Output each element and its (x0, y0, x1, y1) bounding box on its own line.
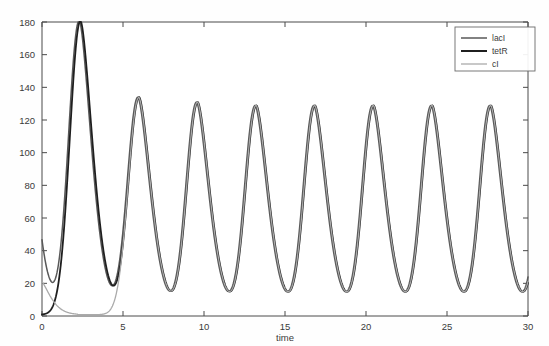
y-tick-label: 40 (24, 245, 35, 256)
y-tick-label: 160 (19, 49, 35, 60)
x-tick-label: 5 (120, 321, 125, 332)
legend-label-laci[interactable]: lacI (492, 33, 505, 43)
y-tick-label: 180 (19, 17, 35, 28)
x-axis-title: time (276, 332, 294, 343)
x-tick-label: 15 (280, 321, 291, 332)
x-tick-label: 10 (199, 321, 210, 332)
figure-canvas: 051015202530020406080100120140160180 tim… (0, 0, 549, 346)
x-tick-label: 25 (442, 321, 453, 332)
chart-svg: 051015202530020406080100120140160180 tim… (0, 0, 549, 346)
y-tick-label: 80 (24, 180, 35, 191)
x-axis-title-group: time (276, 332, 294, 343)
x-tick-label: 20 (361, 321, 372, 332)
legend-label-tetr[interactable]: tetR (492, 46, 508, 56)
legend[interactable]: lacItetRcI (455, 27, 535, 71)
y-tick-label: 60 (24, 213, 35, 224)
y-tick-label: 140 (19, 82, 35, 93)
x-tick-label: 0 (39, 321, 44, 332)
x-tick-label: 30 (523, 321, 534, 332)
y-tick-label: 100 (19, 147, 35, 158)
y-tick-label: 0 (30, 311, 35, 322)
y-tick-label: 120 (19, 115, 35, 126)
y-tick-label: 20 (24, 278, 35, 289)
legend-label-ci[interactable]: cI (492, 59, 499, 69)
